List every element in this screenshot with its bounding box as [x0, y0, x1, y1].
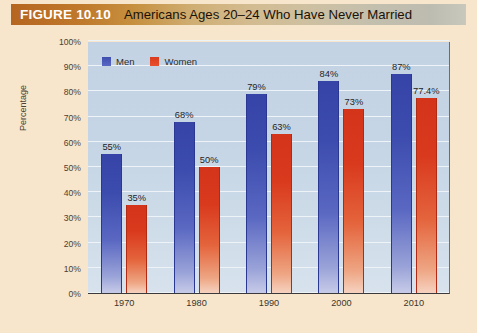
- figure-title-bar: FIGURE 10.10 Americans Ages 20–24 Who Ha…: [11, 4, 466, 25]
- legend-label: Women: [164, 56, 197, 67]
- y-axis-tick-label: 70%: [64, 113, 81, 123]
- y-axis-tick-label: 100%: [59, 37, 81, 47]
- y-axis-tick-label: 50%: [64, 163, 81, 173]
- figure-number: FIGURE 10.10: [11, 7, 111, 22]
- y-axis-title: Percentage: [18, 85, 28, 131]
- legend-label: Men: [116, 56, 134, 67]
- bar-value-label: 35%: [127, 193, 146, 203]
- bar-value-label: 50%: [200, 155, 219, 165]
- bar-value-label: 87%: [392, 62, 411, 72]
- bar-men-2000: [318, 81, 339, 293]
- figure-title: Americans Ages 20–24 Who Have Never Marr…: [111, 7, 412, 22]
- bar-men-1980: [174, 122, 195, 293]
- x-axis-ticks: 19701980199020002010: [88, 298, 450, 314]
- bar-value-label: 73%: [345, 97, 364, 107]
- y-axis-tick-label: 60%: [64, 138, 81, 148]
- bars-layer: 55%35%68%50%79%63%84%73%87%77.4%: [88, 42, 449, 293]
- legend-item-women: Women: [150, 56, 197, 67]
- y-axis-tick-label: 80%: [64, 87, 81, 97]
- bar-value-label: 84%: [320, 69, 339, 79]
- bar-value-label: 63%: [272, 122, 291, 132]
- bar-women-1980: [199, 167, 220, 293]
- y-axis-ticks: 0%10%20%30%40%50%60%70%80%90%100%: [40, 42, 84, 294]
- bar-men-1970: [101, 154, 122, 293]
- bar-women-1990: [271, 134, 292, 293]
- bar-value-label: 77.4%: [413, 86, 439, 96]
- x-axis-tick-label: 2010: [404, 298, 424, 308]
- legend-item-men: Men: [102, 56, 134, 67]
- bar-women-2000: [343, 109, 364, 293]
- y-axis-tick-label: 90%: [64, 62, 81, 72]
- y-axis-tick-label: 20%: [64, 239, 81, 249]
- legend-swatch-women: [150, 57, 159, 66]
- x-axis-tick-label: 2000: [331, 298, 351, 308]
- y-axis-tick-label: 30%: [64, 213, 81, 223]
- bar-value-label: 55%: [102, 142, 121, 152]
- x-axis-tick-label: 1990: [259, 298, 279, 308]
- bar-value-label: 68%: [175, 110, 194, 120]
- figure-container: FIGURE 10.10 Americans Ages 20–24 Who Ha…: [0, 0, 477, 333]
- bar-women-1970: [126, 205, 147, 293]
- bar-women-2010: [416, 98, 437, 293]
- gridline: [88, 40, 449, 41]
- bar-value-label: 79%: [247, 82, 266, 92]
- y-axis-tick-label: 0%: [69, 289, 81, 299]
- x-axis-tick-label: 1980: [186, 298, 206, 308]
- bar-men-1990: [246, 94, 267, 293]
- legend-swatch-men: [102, 57, 111, 66]
- x-axis-tick-label: 1970: [114, 298, 134, 308]
- y-axis-tick-label: 40%: [64, 188, 81, 198]
- plot-area: 55%35%68%50%79%63%84%73%87%77.4% MenWome…: [88, 42, 450, 294]
- bar-men-2010: [391, 74, 412, 293]
- y-axis-tick-label: 10%: [64, 264, 81, 274]
- chart-legend: MenWomen: [102, 56, 197, 67]
